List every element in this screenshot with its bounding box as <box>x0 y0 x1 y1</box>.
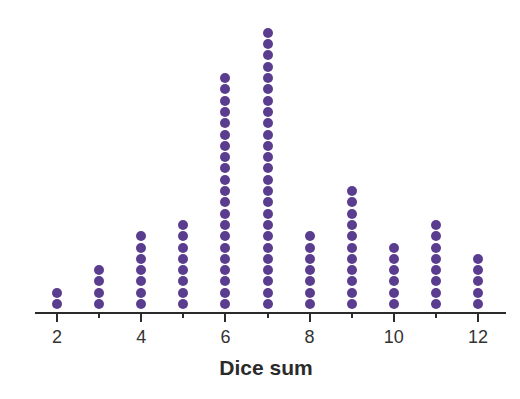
data-dot <box>389 254 399 264</box>
data-dot <box>94 299 104 309</box>
data-dot <box>431 299 441 309</box>
data-dot <box>263 288 273 298</box>
x-tick-label: 2 <box>37 327 77 348</box>
data-dot <box>263 243 273 253</box>
data-dot <box>263 130 273 140</box>
data-dot <box>263 152 273 162</box>
data-dot <box>431 288 441 298</box>
x-tick <box>351 313 353 318</box>
data-dot <box>305 254 315 264</box>
data-dot <box>178 220 188 230</box>
data-dot <box>305 288 315 298</box>
x-tick-label: 12 <box>458 327 498 348</box>
data-dot <box>263 209 273 219</box>
data-dot <box>136 288 146 298</box>
data-dot <box>220 243 230 253</box>
data-dot <box>431 231 441 241</box>
data-dot <box>263 39 273 49</box>
data-dot <box>473 276 483 286</box>
data-dot <box>347 276 357 286</box>
data-dot <box>136 231 146 241</box>
x-tick-label: 6 <box>205 327 245 348</box>
data-dot <box>263 231 273 241</box>
data-dot <box>305 276 315 286</box>
data-dot <box>263 96 273 106</box>
data-dot <box>389 243 399 253</box>
data-dot <box>136 299 146 309</box>
data-dot <box>220 231 230 241</box>
data-dot <box>347 186 357 196</box>
x-tick <box>224 313 226 322</box>
data-dot <box>263 73 273 83</box>
data-dot <box>220 254 230 264</box>
data-dot <box>263 141 273 151</box>
data-dot <box>178 299 188 309</box>
data-dot <box>473 265 483 275</box>
x-tick <box>56 313 58 322</box>
data-dot <box>263 62 273 72</box>
data-dot <box>263 299 273 309</box>
data-dot <box>347 243 357 253</box>
x-tick <box>309 313 311 322</box>
x-tick <box>477 313 479 322</box>
data-dot <box>431 243 441 253</box>
data-dot <box>178 288 188 298</box>
data-dot <box>52 288 62 298</box>
data-dot <box>220 220 230 230</box>
data-dot <box>431 265 441 275</box>
data-dot <box>389 288 399 298</box>
data-dot <box>263 118 273 128</box>
x-tick-label: 10 <box>374 327 414 348</box>
data-dot <box>389 276 399 286</box>
data-dot <box>263 186 273 196</box>
data-dot <box>220 265 230 275</box>
data-dot <box>305 265 315 275</box>
data-dot <box>431 220 441 230</box>
data-dot <box>220 118 230 128</box>
data-dot <box>94 288 104 298</box>
data-dot <box>178 243 188 253</box>
x-tick <box>140 313 142 322</box>
data-dot <box>220 209 230 219</box>
data-dot <box>347 288 357 298</box>
data-dot <box>220 299 230 309</box>
data-dot <box>220 163 230 173</box>
data-dot <box>431 276 441 286</box>
data-dot <box>220 152 230 162</box>
x-tick-label: 8 <box>290 327 330 348</box>
data-dot <box>220 141 230 151</box>
data-dot <box>52 299 62 309</box>
data-dot <box>220 84 230 94</box>
data-dot <box>263 254 273 264</box>
x-tick <box>393 313 395 322</box>
dot-plot: 24681012 Dice sum <box>0 0 520 399</box>
data-dot <box>263 163 273 173</box>
data-dot <box>220 96 230 106</box>
data-dot <box>220 288 230 298</box>
data-dot <box>473 288 483 298</box>
data-dot <box>347 299 357 309</box>
data-dot <box>220 197 230 207</box>
data-dot <box>220 276 230 286</box>
x-tick <box>435 313 437 318</box>
data-dot <box>263 276 273 286</box>
data-dot <box>263 84 273 94</box>
data-dot <box>263 220 273 230</box>
data-dot <box>220 186 230 196</box>
data-dot <box>136 276 146 286</box>
data-dot <box>178 265 188 275</box>
data-dot <box>389 265 399 275</box>
data-dot <box>136 243 146 253</box>
data-dot <box>263 28 273 38</box>
data-dot <box>305 299 315 309</box>
data-dot <box>389 299 399 309</box>
data-dot <box>347 254 357 264</box>
data-dot <box>94 265 104 275</box>
data-dot <box>263 265 273 275</box>
data-dot <box>347 209 357 219</box>
data-dot <box>178 276 188 286</box>
data-dot <box>305 243 315 253</box>
data-dot <box>220 107 230 117</box>
data-dot <box>473 299 483 309</box>
data-dot <box>178 254 188 264</box>
